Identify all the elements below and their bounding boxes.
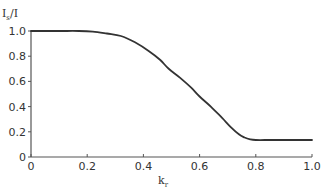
y-tick-label: 0 bbox=[19, 151, 26, 164]
x-tick-label: 0.4 bbox=[135, 160, 153, 173]
x-tick-label: 0.6 bbox=[191, 160, 209, 173]
y-tick-label: 0.4 bbox=[9, 101, 27, 114]
x-tick-label: 0.2 bbox=[78, 160, 96, 173]
y-tick-label: 0.6 bbox=[9, 75, 27, 88]
x-tick-label: 0.8 bbox=[247, 160, 265, 173]
y-tick-label: 0.8 bbox=[9, 50, 27, 63]
x-axis-label: kr bbox=[158, 174, 169, 189]
x-tick-label: 1.0 bbox=[303, 160, 321, 173]
chart: 00.20.40.60.81.0 00.20.40.60.81.0 Is/I k… bbox=[0, 0, 328, 189]
y-axis-ticks: 00.20.40.60.81.0 bbox=[9, 25, 32, 164]
y-tick-label: 1.0 bbox=[9, 25, 27, 38]
axes bbox=[31, 31, 312, 157]
y-axis-label: Is/I bbox=[2, 7, 18, 22]
y-tick-label: 0.2 bbox=[9, 126, 27, 139]
x-tick-label: 0 bbox=[28, 160, 35, 173]
data-curve bbox=[31, 31, 312, 140]
